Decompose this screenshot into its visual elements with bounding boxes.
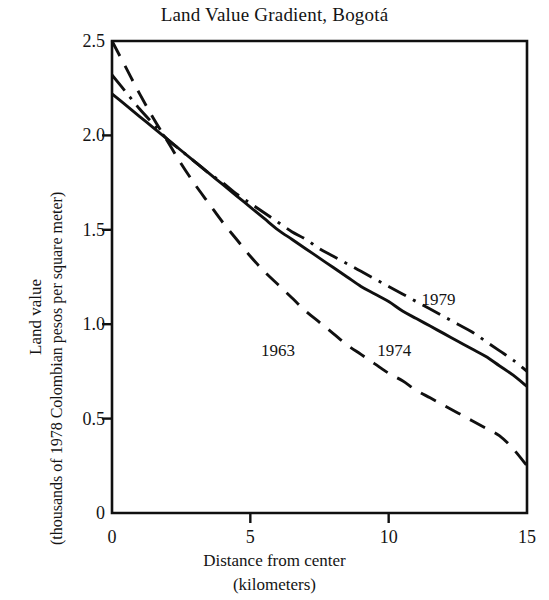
series-annotation-1974: 1974 xyxy=(377,341,411,361)
x-axis-tick-label: 10 xyxy=(367,527,411,548)
chart-figure: Land Value Gradient, Bogotá Land value (… xyxy=(0,0,549,600)
x-axis-tick-label: 15 xyxy=(505,527,549,548)
x-axis-tick-labels: 051015 xyxy=(0,0,549,600)
x-axis-tick-label: 0 xyxy=(90,527,134,548)
x-axis-title: Distance from center xyxy=(0,551,549,571)
x-axis-tick-label: 5 xyxy=(228,527,272,548)
x-axis-units: (kilometers) xyxy=(0,575,549,595)
series-annotation-1979: 1979 xyxy=(421,290,455,310)
series-annotation-1963: 1963 xyxy=(261,341,295,361)
